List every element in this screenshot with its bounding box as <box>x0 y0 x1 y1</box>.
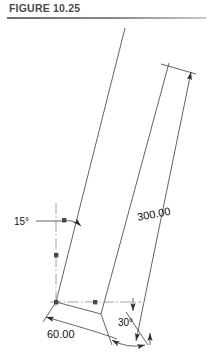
figure-page: FIGURE 10.25 <box>0 0 209 357</box>
dimension-label-30deg: 30° <box>118 317 133 328</box>
extension-line-30-left <box>101 314 112 345</box>
angle-arc-15deg <box>64 221 81 226</box>
dimension-300: 300.00 <box>136 64 196 341</box>
dimension-60: 60.00 <box>43 302 117 340</box>
dimension-30-degrees: 30° <box>101 298 150 346</box>
object-lines <box>56 28 169 314</box>
dimension-label-60: 60.00 <box>47 328 75 340</box>
center-node-marker-upper <box>62 218 66 222</box>
angle-arc-30deg <box>112 340 145 346</box>
dimension-15-degrees: 15° <box>14 216 81 227</box>
center-node-marker-horizontal <box>93 300 97 304</box>
technical-drawing: 15° 60.00 30° 300.00 <box>0 0 209 357</box>
object-line-left-edge <box>56 28 125 302</box>
center-lines <box>50 203 141 307</box>
dimension-label-15deg: 15° <box>14 216 29 227</box>
object-line-right-edge <box>101 63 169 314</box>
center-node-marker-vertical <box>54 253 58 257</box>
dimension-label-300: 300.00 <box>136 205 171 223</box>
